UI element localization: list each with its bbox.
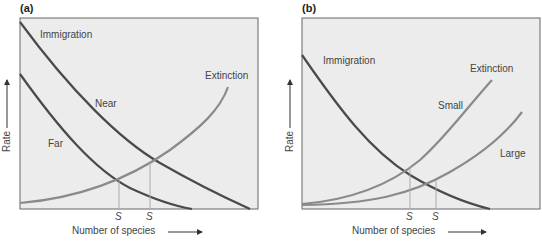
- panel-a-far-label: Far: [48, 138, 63, 149]
- panel-b-s-large-tick: S: [432, 211, 439, 222]
- panel-b-y-axis-label: Rate: [284, 131, 295, 152]
- panel-a-y-axis-label: Rate: [1, 131, 12, 152]
- panel-a-extinction-label: Extinction: [205, 70, 248, 81]
- panel-a-s-far-tick: S: [115, 211, 122, 222]
- panel-a-x-axis-label: Number of species: [72, 225, 155, 236]
- panel-b-immigration-label: Immigration: [323, 55, 375, 66]
- panel-b-small-label: Small: [438, 100, 463, 111]
- panel-b-large-label: Large: [500, 148, 526, 159]
- panel-b-x-axis-label: Number of species: [352, 225, 435, 236]
- panel-a-immigration-label: Immigration: [40, 29, 92, 40]
- panel-b-extinction-label: Extinction: [470, 63, 513, 74]
- panel-b-s-small-tick: S: [406, 211, 413, 222]
- panel-a-near-label: Near: [95, 98, 117, 109]
- panel-a-s-near-tick: S: [146, 211, 153, 222]
- panel-a-plot-area: [20, 18, 258, 209]
